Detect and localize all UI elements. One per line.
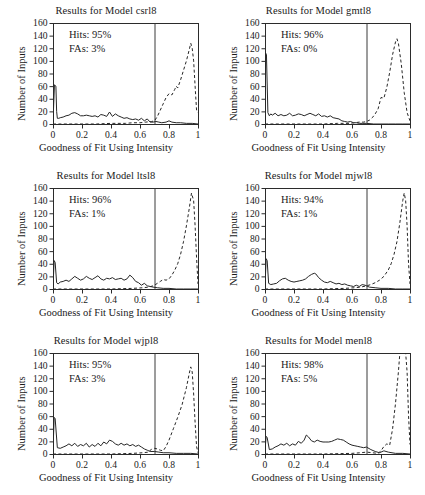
x-tick-label: 0.4 <box>317 129 329 140</box>
x-tick-label: 0.6 <box>346 294 358 305</box>
x-tick-label: 0.6 <box>346 129 358 140</box>
false-alarm-distribution-curve <box>53 417 198 454</box>
fas-annotation: FAs: 3% <box>69 43 106 54</box>
fas-annotation: FAs: 3% <box>69 373 106 384</box>
y-axis-label: Number of Inputs <box>228 46 239 121</box>
y-tick-label: 80 <box>250 68 260 79</box>
hit-distribution-curve <box>53 43 198 124</box>
y-tick-label: 120 <box>245 208 260 219</box>
x-tick-label: 1 <box>408 459 413 470</box>
plot-area: 02040608010012014016000.20.40.60.81Hits:… <box>0 165 212 330</box>
x-tick-label: 0.8 <box>375 129 387 140</box>
chart-panel: Results for Model wjpl802040608010012014… <box>0 330 212 495</box>
y-tick-label: 0 <box>43 283 48 294</box>
x-tick-label: 1 <box>408 129 413 140</box>
false-alarm-distribution-curve <box>265 435 410 454</box>
x-tick-label: 0.4 <box>317 459 329 470</box>
y-tick-label: 120 <box>33 43 48 54</box>
plot-area: 02040608010012014016000.20.40.60.81Hits:… <box>0 0 212 165</box>
y-axis-label: Number of Inputs <box>228 211 239 286</box>
x-tick-label: 0.8 <box>375 459 387 470</box>
y-tick-label: 160 <box>245 182 260 193</box>
y-tick-label: 0 <box>43 448 48 459</box>
y-tick-label: 100 <box>33 220 48 231</box>
y-tick-label: 40 <box>38 93 48 104</box>
hit-distribution-curve <box>265 337 410 454</box>
x-tick-label: 0 <box>51 294 56 305</box>
x-axis-label: Goodness of Fit Using Intensity <box>212 472 425 483</box>
hits-annotation: Hits: 95% <box>69 359 112 370</box>
y-tick-label: 0 <box>255 448 260 459</box>
y-tick-label: 60 <box>250 411 260 422</box>
y-tick-label: 80 <box>38 68 48 79</box>
y-tick-label: 100 <box>245 220 260 231</box>
x-tick-label: 0.4 <box>105 459 117 470</box>
x-tick-label: 0.8 <box>163 294 175 305</box>
y-tick-label: 140 <box>33 30 48 41</box>
x-tick-label: 1 <box>408 294 413 305</box>
x-tick-label: 1 <box>196 129 201 140</box>
y-tick-label: 80 <box>250 233 260 244</box>
chart-panel: Results for Model menl802040608010012014… <box>212 330 425 495</box>
y-tick-label: 60 <box>250 81 260 92</box>
y-tick-label: 140 <box>245 360 260 371</box>
y-tick-label: 20 <box>250 271 260 282</box>
y-tick-label: 120 <box>33 373 48 384</box>
figure-panel-grid: Results for Model csrl802040608010012014… <box>0 0 425 495</box>
y-tick-label: 80 <box>38 398 48 409</box>
false-alarm-distribution-curve <box>53 261 198 289</box>
y-tick-label: 120 <box>245 43 260 54</box>
x-tick-label: 0.2 <box>288 294 300 305</box>
plot-area: 02040608010012014016000.20.40.60.81Hits:… <box>212 0 424 165</box>
y-tick-label: 80 <box>250 398 260 409</box>
x-tick-label: 0.6 <box>134 459 146 470</box>
y-tick-label: 60 <box>38 246 48 257</box>
y-tick-label: 100 <box>33 385 48 396</box>
hits-annotation: Hits: 94% <box>281 194 324 205</box>
x-tick-label: 0 <box>51 129 56 140</box>
x-tick-label: 0.6 <box>134 294 146 305</box>
x-tick-label: 0.8 <box>375 294 387 305</box>
y-tick-label: 60 <box>38 411 48 422</box>
y-tick-label: 0 <box>255 283 260 294</box>
y-tick-label: 160 <box>33 17 48 28</box>
x-axis-label: Goodness of Fit Using Intensity <box>0 472 212 483</box>
y-tick-label: 40 <box>250 258 260 269</box>
x-tick-label: 0.2 <box>288 129 300 140</box>
y-tick-label: 160 <box>33 182 48 193</box>
y-tick-label: 140 <box>245 195 260 206</box>
y-tick-label: 20 <box>250 436 260 447</box>
x-tick-label: 0.4 <box>317 294 329 305</box>
x-tick-label: 0.2 <box>76 129 88 140</box>
hits-annotation: Hits: 96% <box>69 194 112 205</box>
x-axis-label: Goodness of Fit Using Intensity <box>0 307 212 318</box>
x-tick-label: 0.6 <box>346 459 358 470</box>
x-axis-label: Goodness of Fit Using Intensity <box>212 307 425 318</box>
y-tick-label: 100 <box>33 55 48 66</box>
y-tick-label: 40 <box>38 258 48 269</box>
chart-panel: Results for Model csrl802040608010012014… <box>0 0 212 165</box>
y-tick-label: 100 <box>245 55 260 66</box>
x-tick-label: 0.4 <box>105 294 117 305</box>
fas-annotation: FAs: 1% <box>69 208 106 219</box>
x-axis-label: Goodness of Fit Using Intensity <box>0 142 212 153</box>
y-axis-label: Number of Inputs <box>228 376 239 451</box>
fas-annotation: FAs: 1% <box>281 208 318 219</box>
y-tick-label: 20 <box>38 271 48 282</box>
x-tick-label: 0 <box>51 459 56 470</box>
y-tick-label: 40 <box>250 93 260 104</box>
plot-area: 02040608010012014016000.20.40.60.81Hits:… <box>212 330 424 495</box>
false-alarm-distribution-curve <box>265 53 410 124</box>
x-tick-label: 0.2 <box>76 294 88 305</box>
x-tick-label: 0.2 <box>288 459 300 470</box>
x-tick-label: 1 <box>196 459 201 470</box>
chart-panel: Results for Model ltsl802040608010012014… <box>0 165 212 330</box>
hits-annotation: Hits: 98% <box>281 359 324 370</box>
y-tick-label: 20 <box>250 106 260 117</box>
x-tick-label: 0.4 <box>105 129 117 140</box>
x-tick-label: 0.2 <box>76 459 88 470</box>
y-tick-label: 100 <box>245 385 260 396</box>
y-tick-label: 160 <box>33 347 48 358</box>
y-axis-label: Number of Inputs <box>16 46 27 121</box>
x-tick-label: 0 <box>263 294 268 305</box>
